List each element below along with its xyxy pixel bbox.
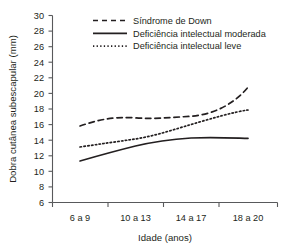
y-tick-label-26: 26 xyxy=(34,42,44,52)
y-tick-label-18: 18 xyxy=(34,104,44,114)
y-tick-label-20: 20 xyxy=(34,89,44,99)
y-tick-label-14: 14 xyxy=(34,136,44,146)
x-tick-labels: 6 a 9 10 a 13 14 a 17 18 a 20 xyxy=(70,213,264,223)
legend-item-0[interactable]: Síndrome de Down xyxy=(93,16,212,26)
legend-label-sindrome-de-down: Síndrome de Down xyxy=(133,16,212,26)
chart-legend: Síndrome de Down Deficiência intelectual… xyxy=(93,16,267,52)
y-axis-title: Dobra cutânea subescapular (mm) xyxy=(7,35,18,183)
y-tick-label-12: 12 xyxy=(34,151,44,161)
series-group xyxy=(80,87,248,161)
x-tick-label-1: 10 a 13 xyxy=(120,213,151,223)
y-axis: 30 28 26 24 22 20 18 16 14 12 10 8 6 Dob… xyxy=(7,11,53,208)
x-tick-marks xyxy=(53,203,278,208)
x-axis: 6 a 9 10 a 13 14 a 17 18 a 20 Idade (ano… xyxy=(53,203,278,244)
x-axis-title: Idade (anos) xyxy=(138,232,192,243)
y-tick-label-16: 16 xyxy=(34,120,44,130)
y-tick-label-30: 30 xyxy=(34,11,44,21)
x-tick-label-3: 18 a 20 xyxy=(233,213,264,223)
skinfold-by-age-line-chart: 30 28 26 24 22 20 18 16 14 12 10 8 6 Dob… xyxy=(0,0,286,248)
legend-item-2[interactable]: Deficiência intelectual leve xyxy=(93,41,241,51)
legend-label-deficiencia-intelectual-moderada: Deficiência intelectual moderada xyxy=(133,29,267,39)
series-deficiencia-intelectual-moderada xyxy=(80,137,248,161)
legend-label-deficiencia-intelectual-leve: Deficiência intelectual leve xyxy=(133,41,241,51)
y-tick-label-28: 28 xyxy=(34,26,44,36)
x-tick-label-2: 14 a 17 xyxy=(176,213,207,223)
y-tick-label-24: 24 xyxy=(34,58,44,68)
y-tick-label-10: 10 xyxy=(34,167,44,177)
y-tick-label-22: 22 xyxy=(34,73,44,83)
series-sindrome-de-down xyxy=(80,87,248,126)
y-tick-marks xyxy=(49,16,53,203)
x-tick-label-0: 6 a 9 xyxy=(70,213,90,223)
legend-item-1[interactable]: Deficiência intelectual moderada xyxy=(93,29,267,39)
y-tick-labels: 30 28 26 24 22 20 18 16 14 12 10 8 6 xyxy=(34,11,44,208)
y-tick-label-6: 6 xyxy=(39,198,44,208)
y-tick-label-8: 8 xyxy=(39,182,44,192)
chart-figure: 30 28 26 24 22 20 18 16 14 12 10 8 6 Dob… xyxy=(0,0,286,248)
